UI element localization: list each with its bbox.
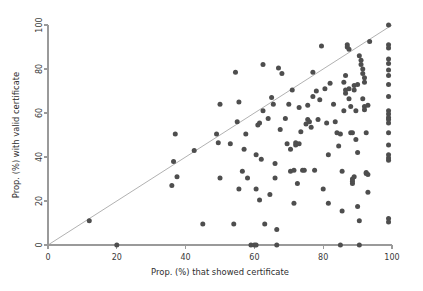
- data-point: [338, 131, 343, 136]
- y-tick-label: 80: [35, 64, 44, 74]
- plot-canvas: 020406080100 020406080100 Prop. (%) that…: [0, 0, 423, 291]
- data-point: [309, 125, 314, 130]
- data-point: [286, 102, 291, 107]
- data-point: [269, 95, 274, 100]
- data-point: [305, 103, 310, 108]
- data-point: [348, 104, 353, 109]
- data-point: [347, 47, 352, 52]
- data-point: [245, 175, 250, 180]
- data-point: [216, 140, 221, 145]
- data-point: [386, 57, 391, 62]
- data-point: [302, 168, 307, 173]
- data-point: [288, 147, 293, 152]
- data-point: [254, 152, 259, 157]
- data-point: [365, 172, 370, 177]
- data-point: [359, 62, 364, 67]
- data-point: [364, 130, 369, 135]
- data-point: [267, 192, 272, 197]
- scatter-plot-figure: 020406080100 020406080100 Prop. (%) that…: [0, 0, 423, 291]
- data-point: [231, 222, 236, 227]
- data-point: [218, 102, 223, 107]
- data-point: [324, 120, 329, 125]
- data-point: [314, 89, 319, 94]
- data-point: [243, 131, 248, 136]
- data-point: [360, 71, 365, 76]
- x-axis-title: Prop. (%) that showed certificate: [151, 267, 289, 277]
- data-point: [386, 142, 391, 147]
- data-point: [357, 53, 362, 58]
- data-point: [254, 243, 259, 248]
- data-point: [340, 208, 345, 213]
- data-point: [362, 80, 367, 85]
- data-point: [257, 197, 262, 202]
- data-point: [357, 218, 362, 223]
- data-point: [347, 86, 352, 91]
- x-tick-label: 60: [249, 253, 259, 262]
- data-point: [321, 186, 326, 191]
- data-point: [218, 175, 223, 180]
- data-point: [240, 169, 245, 174]
- data-point: [173, 131, 178, 136]
- data-point: [341, 108, 346, 113]
- data-point: [273, 175, 278, 180]
- data-point: [278, 127, 283, 132]
- data-point: [175, 174, 180, 179]
- data-point: [357, 243, 362, 248]
- data-point: [331, 102, 336, 107]
- data-point: [291, 201, 296, 206]
- data-point: [171, 159, 176, 164]
- data-points-group: [87, 23, 391, 248]
- data-point: [360, 67, 365, 72]
- data-point: [355, 82, 360, 87]
- data-point: [233, 70, 238, 75]
- data-point: [362, 107, 367, 112]
- data-point: [386, 82, 391, 87]
- x-tick-label: 100: [384, 253, 399, 262]
- data-point: [386, 120, 391, 125]
- data-point: [355, 204, 360, 209]
- data-point: [319, 43, 324, 48]
- data-point: [283, 116, 288, 121]
- data-point: [290, 87, 295, 92]
- data-point: [353, 137, 358, 142]
- data-point: [235, 119, 240, 124]
- data-point: [279, 71, 284, 76]
- x-tick-label: 20: [112, 253, 122, 262]
- y-axis-title-text: Prop. (%) with valid certificate: [11, 72, 21, 199]
- data-point: [291, 168, 296, 173]
- data-point: [340, 169, 345, 174]
- y-tick-label: 100: [35, 17, 44, 32]
- data-point: [274, 243, 279, 248]
- data-point: [271, 102, 276, 107]
- data-point: [350, 130, 355, 135]
- data-point: [355, 150, 360, 155]
- data-point: [386, 61, 391, 66]
- data-point: [312, 168, 317, 173]
- data-point: [262, 222, 267, 227]
- data-point: [169, 183, 174, 188]
- data-point: [236, 186, 241, 191]
- data-point: [360, 96, 365, 101]
- y-tick-label: 0: [35, 242, 44, 247]
- y-tick-label: 60: [35, 108, 44, 118]
- data-point: [273, 161, 278, 166]
- data-point: [307, 119, 312, 124]
- y-tick-label: 20: [35, 196, 44, 206]
- data-point: [386, 73, 391, 78]
- data-point: [328, 81, 333, 86]
- x-tick-label: 40: [181, 253, 191, 262]
- data-point: [326, 201, 331, 206]
- data-point: [285, 141, 290, 146]
- x-tick-label: 80: [318, 253, 328, 262]
- data-point: [295, 181, 300, 186]
- data-point: [336, 144, 341, 149]
- x-axis-title-text: Prop. (%) that showed certificate: [151, 267, 289, 277]
- data-point: [341, 80, 346, 85]
- y-axis-tick-labels: 020406080100: [35, 17, 44, 247]
- data-point: [254, 186, 259, 191]
- data-point: [274, 227, 279, 232]
- data-point: [310, 94, 315, 99]
- data-point: [317, 97, 322, 102]
- data-point: [297, 105, 302, 110]
- data-point: [228, 141, 233, 146]
